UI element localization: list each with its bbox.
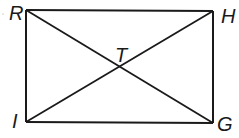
side-GI — [26, 122, 213, 123]
rectangle-diagram: R H I G T — [0, 0, 239, 138]
intersection-label-T: T — [115, 44, 129, 66]
side-RH — [26, 10, 213, 11]
vertex-label-H: H — [221, 5, 236, 27]
vertex-label-R: R — [9, 2, 23, 24]
vertex-label-G: G — [217, 113, 233, 135]
vertex-label-I: I — [12, 110, 18, 132]
speck-dot — [2, 13, 3, 14]
